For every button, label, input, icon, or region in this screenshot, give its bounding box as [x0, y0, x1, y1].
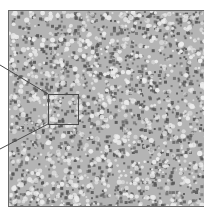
- micrograph-image: [8, 10, 204, 207]
- speckle-texture: [9, 11, 204, 207]
